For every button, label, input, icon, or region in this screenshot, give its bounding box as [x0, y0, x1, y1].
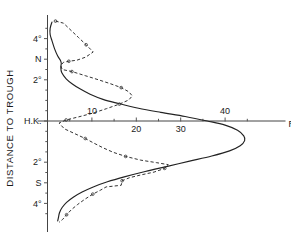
y-tick-label: 2°	[33, 157, 42, 167]
x-axis-title: Rainfall mm	[289, 119, 292, 129]
y-tick-label: 4°	[33, 199, 42, 209]
rainfall-distance-chart: 4°N2°H.K.2°S4°10203040Rainfall mmDISTANC…	[0, 0, 291, 248]
y-tick-label: 4°	[33, 34, 42, 44]
dashed-series-path	[55, 21, 168, 222]
y-tick-label: S	[35, 178, 41, 188]
y-tick-label: H.K.	[24, 116, 42, 126]
x-tick-label: 40	[220, 106, 230, 116]
axes-group	[38, 15, 286, 232]
chart-canvas: 4°N2°H.K.2°S4°10203040Rainfall mmDISTANC…	[0, 0, 291, 248]
solid-series-path	[50, 22, 245, 221]
y-tick-label: 2°	[33, 75, 42, 85]
x-tick-label: 30	[176, 124, 186, 134]
data-point-marker	[91, 193, 94, 196]
y-tick-label: N	[35, 54, 42, 64]
x-tick-label: 10	[87, 106, 97, 116]
y-axis-title: DISTANCE TO TROUGH	[4, 69, 15, 186]
x-tick-label: 20	[131, 124, 141, 134]
